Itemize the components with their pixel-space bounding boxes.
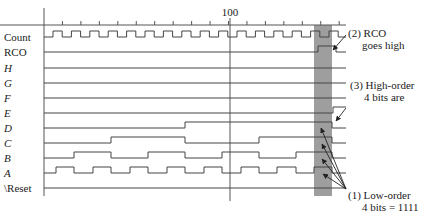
waveform-d: [44, 122, 346, 128]
highlight-band: [314, 25, 332, 196]
waveform-rco: [44, 46, 346, 52]
annotation-high-order: 4 bits are: [364, 91, 404, 103]
arrow-icon: [336, 108, 346, 121]
waveform-e: [44, 107, 346, 113]
timing-diagram: 100 CountRCOHGFEDCBA\Reset (2) RCOgoes h…: [0, 0, 428, 217]
time-marker-label: 100: [222, 6, 239, 18]
annotation-low-order: 4 bits = 1111: [362, 201, 419, 213]
signal-label: Count: [4, 31, 31, 43]
signal-labels: CountRCOHGFEDCBA\Reset: [3, 31, 32, 194]
waveform-c: [44, 137, 346, 143]
signal-label: A: [3, 167, 11, 179]
signal-waveforms: [44, 31, 346, 188]
signal-label: D: [3, 122, 12, 134]
signal-label: RCO: [4, 46, 27, 58]
waveform-count: [44, 31, 346, 37]
signal-label: G: [4, 77, 12, 89]
waveform-a: [44, 167, 346, 173]
annotations: (2) RCOgoes high(3) High-order4 bits are…: [348, 27, 419, 213]
signal-label: F: [3, 92, 11, 104]
annotation-rco: goes high: [362, 39, 405, 51]
signal-label: E: [3, 107, 11, 119]
signal-label: H: [3, 62, 13, 74]
signal-label: \Reset: [4, 182, 32, 194]
signal-label: B: [4, 152, 11, 164]
waveform-b: [44, 152, 346, 158]
signal-label: C: [4, 137, 12, 149]
